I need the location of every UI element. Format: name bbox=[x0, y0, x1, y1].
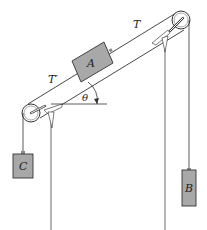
angle-label: θ bbox=[82, 92, 88, 103]
block-a: A bbox=[72, 42, 113, 82]
tension-lower-label: T′ bbox=[48, 73, 58, 86]
block-a-label: A bbox=[86, 57, 95, 70]
pulley-left bbox=[22, 104, 45, 122]
angle-arrowhead bbox=[94, 98, 99, 104]
pulley-top-right bbox=[170, 11, 190, 31]
support-posts bbox=[51, 40, 165, 230]
brackets bbox=[44, 30, 170, 128]
tension-upper-label: T bbox=[133, 18, 142, 31]
pulley-incline-diagram: θ T T′ A C B bbox=[0, 0, 207, 230]
block-c: C bbox=[13, 151, 33, 178]
block-c-label: C bbox=[19, 160, 28, 173]
block-b-label: B bbox=[184, 182, 193, 195]
block-b: B bbox=[182, 168, 196, 206]
